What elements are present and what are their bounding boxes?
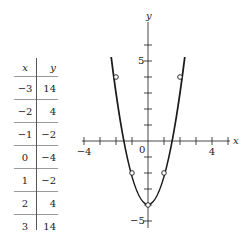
y-tick-label-5: 5 [138, 55, 144, 66]
y-axis-label: y [145, 10, 152, 21]
point-neg1-neg2 [130, 171, 135, 176]
point-neg2-4 [114, 75, 119, 80]
x-tick-label-neg4: −4 [77, 146, 92, 157]
y-tick-label-neg5: −5 [130, 215, 145, 226]
x-tick-label-4: 4 [209, 146, 215, 157]
origin-label: 0 [139, 144, 145, 155]
x-axis-label: x [233, 135, 239, 146]
point-1-neg2 [162, 171, 167, 176]
parabola-graph: y x 5 −5 −4 4 0 [0, 0, 248, 239]
point-0-neg4 [146, 203, 151, 208]
point-2-4 [178, 75, 183, 80]
